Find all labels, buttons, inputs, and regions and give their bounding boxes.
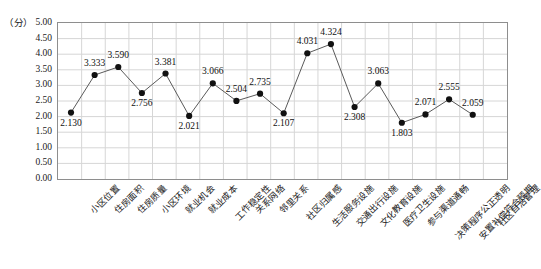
- data-point-marker: [115, 64, 121, 70]
- y-axis-tick: 3.00: [35, 81, 52, 91]
- data-point-marker: [422, 111, 428, 117]
- data-point-marker: [446, 96, 452, 102]
- data-point-value-label: 2.021: [178, 122, 199, 132]
- data-point-value-label: 3.066: [202, 67, 223, 77]
- data-point-value-label: 4.031: [297, 37, 318, 47]
- data-point-marker: [281, 110, 287, 116]
- data-point-value-label: 2.735: [249, 78, 270, 88]
- y-axis-tick: 4.50: [35, 34, 52, 44]
- data-point-value-label: 2.130: [60, 119, 81, 129]
- data-point-marker: [233, 98, 239, 104]
- data-point-marker: [68, 109, 74, 115]
- data-point-marker: [210, 80, 216, 86]
- data-point-marker: [375, 80, 381, 86]
- data-point-value-label: 2.107: [273, 119, 294, 129]
- data-point-value-label: 2.756: [131, 99, 152, 109]
- data-point-value-label: 3.333: [84, 59, 105, 69]
- y-axis-tick: 2.00: [35, 112, 52, 122]
- y-axis-tick: 2.50: [35, 96, 52, 106]
- data-point-marker: [328, 41, 334, 47]
- x-axis-category-labels: 小区位置住房面积住房质量小区环境就业机会就业成本工作稳定性关系网络邻里关系社区归…: [57, 180, 508, 269]
- data-point-marker: [186, 113, 192, 119]
- y-axis-tick: 0.00: [35, 174, 52, 184]
- data-point-marker: [139, 90, 145, 96]
- y-axis-tick-labels: 5.004.504.003.503.002.502.001.501.000.50…: [0, 0, 55, 269]
- y-axis-tick: 3.50: [35, 65, 52, 75]
- data-point-marker: [92, 72, 98, 78]
- plot-area: [57, 22, 508, 180]
- chart-canvas: [58, 23, 507, 179]
- y-axis-tick: 0.50: [35, 159, 52, 169]
- y-axis-tick: 5.00: [35, 18, 52, 28]
- y-axis-tick: 1.00: [35, 143, 52, 153]
- data-point-value-label: 3.381: [155, 58, 176, 68]
- data-point-value-label: 4.324: [320, 28, 341, 38]
- y-axis-tick: 1.50: [35, 127, 52, 137]
- data-point-value-label: 2.059: [462, 99, 483, 109]
- data-point-value-label: 2.555: [438, 83, 459, 93]
- data-point-marker: [257, 91, 263, 97]
- data-point-marker: [351, 104, 357, 110]
- data-point-marker: [304, 50, 310, 56]
- data-point-value-label: 3.063: [368, 67, 389, 77]
- data-point-marker: [162, 70, 168, 76]
- data-point-marker: [399, 120, 405, 126]
- data-point-value-label: 1.803: [391, 129, 412, 139]
- data-point-value-label: 2.308: [344, 113, 365, 123]
- data-point-value-label: 3.590: [108, 51, 129, 61]
- data-point-marker: [470, 112, 476, 118]
- y-axis-tick: 4.00: [35, 49, 52, 59]
- data-point-value-label: 2.071: [415, 98, 436, 108]
- data-point-value-label: 2.504: [226, 85, 247, 95]
